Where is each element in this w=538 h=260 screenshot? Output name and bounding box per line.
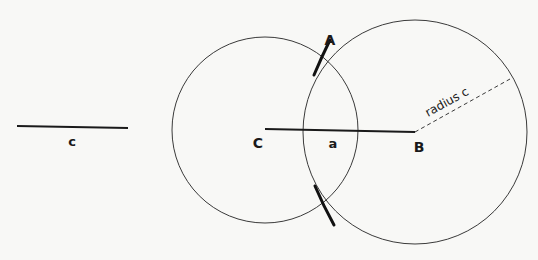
side-a-label: a [329, 136, 338, 151]
point-c-label: C [253, 135, 263, 151]
point-b-label: B [414, 139, 425, 155]
point-a-label: A [325, 32, 336, 48]
construction-diagram: c radius c A C B a [0, 0, 538, 260]
segment-c-label: c [68, 134, 76, 149]
given-segment-c [17, 126, 128, 128]
base-line-cb [265, 129, 415, 132]
